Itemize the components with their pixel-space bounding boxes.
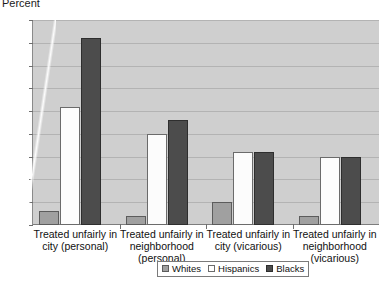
legend-item-whites: Whites <box>162 263 201 274</box>
legend-swatch-icon <box>208 265 215 272</box>
bar-blacks-2 <box>254 152 274 225</box>
x-axis-label-1: Treated unfairly in neighborhood (person… <box>119 228 206 264</box>
legend-label: Whites <box>172 263 201 274</box>
chart-legend: WhitesHispanicsBlacks <box>157 261 309 277</box>
bar-whites-1 <box>126 216 146 225</box>
y-tick-mark <box>29 225 33 226</box>
y-axis-title: Percent <box>2 0 40 9</box>
bar-group <box>33 20 120 225</box>
x-axis-label-2: Treated unfairly in city (vicarious) <box>205 228 292 252</box>
legend-label: Hispanics <box>218 263 259 274</box>
x-axis-label-3: Treated unfairly in neighborhood (vicari… <box>292 228 379 264</box>
bar-blacks-3 <box>341 157 361 225</box>
plot-inner: 454035302520151050 <box>33 20 379 225</box>
legend-item-blacks: Blacks <box>266 263 304 274</box>
bar-whites-2 <box>212 202 232 225</box>
bar-hispanics-0 <box>60 107 80 225</box>
bar-group <box>120 20 207 225</box>
plot-area: 454035302520151050 <box>32 20 379 225</box>
bar-group <box>293 20 380 225</box>
bar-whites-3 <box>299 216 319 225</box>
bar-hispanics-1 <box>147 134 167 225</box>
legend-item-hispanics: Hispanics <box>208 263 259 274</box>
legend-swatch-icon <box>266 265 273 272</box>
bar-blacks-1 <box>168 120 188 225</box>
bar-group <box>206 20 293 225</box>
x-axis-label-0: Treated unfairly in city (personal) <box>32 228 119 252</box>
legend-swatch-icon <box>162 265 169 272</box>
bar-hispanics-2 <box>233 152 253 225</box>
bar-whites-0 <box>39 211 59 225</box>
legend-label: Blacks <box>276 263 304 274</box>
bar-chart: Percent 454035302520151050 Treated unfai… <box>0 0 390 290</box>
bar-hispanics-3 <box>320 157 340 225</box>
bar-blacks-0 <box>81 38 101 225</box>
